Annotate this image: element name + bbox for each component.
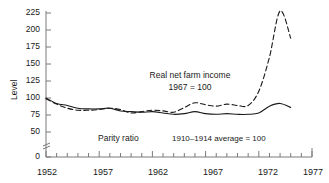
- farm-income-parity-chart: Level 225 200 175 150 125 100 75 50 0 19…: [0, 0, 329, 183]
- series-line-real-net-farm-income: [46, 11, 291, 113]
- chart-canvas: [0, 0, 329, 183]
